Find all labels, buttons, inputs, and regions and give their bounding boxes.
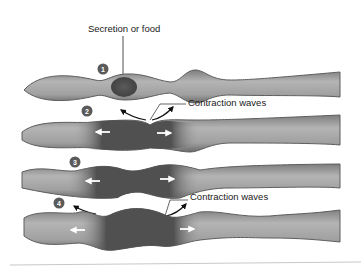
contraction-waves-label-2: Contraction waves [188, 97, 266, 108]
svg-text:3: 3 [73, 159, 77, 166]
step-badge-3: 3 [70, 157, 81, 168]
svg-text:4: 4 [57, 200, 61, 207]
step-badge-1: 1 [98, 64, 109, 75]
contraction-waves-label-4: Contraction waves [190, 191, 268, 202]
right-arrow-4 [166, 204, 186, 216]
svg-text:1: 1 [101, 66, 105, 73]
tube-step-3 [22, 164, 340, 199]
peristalsis-diagram: Secretion or food 1 2 Contraction waves … [0, 0, 361, 270]
bottom-divider [10, 262, 361, 265]
tube-step-4 [24, 209, 340, 251]
step-badge-4: 4 [54, 198, 65, 209]
right-arrow-2 [152, 107, 173, 120]
tube-step-1 [24, 70, 340, 103]
left-arrow-2 [121, 110, 146, 120]
svg-text:2: 2 [85, 108, 89, 115]
leader-line-4 [165, 200, 188, 216]
tube-step-2 [22, 115, 340, 152]
bolus [111, 77, 137, 97]
step-badge-2: 2 [82, 106, 93, 117]
secretion-label: Secretion or food [88, 23, 160, 34]
